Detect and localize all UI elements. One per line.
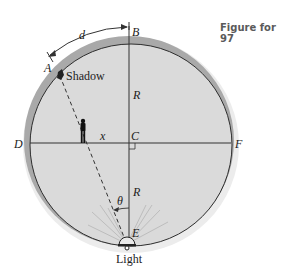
label-F: F (234, 137, 243, 151)
label-shadow: Shadow (66, 69, 105, 83)
label-d: d (79, 28, 86, 42)
label-R-bottom: R (132, 185, 141, 199)
label-theta: θ (117, 194, 123, 208)
label-E: E (131, 226, 140, 240)
label-x: x (99, 129, 106, 143)
label-A: A (43, 61, 52, 75)
arc-d-arrow-right (121, 24, 128, 30)
label-C: C (131, 129, 140, 143)
label-D: D (13, 137, 23, 151)
label-R-top: R (132, 88, 141, 102)
figure-caption: Figure for 97 (220, 22, 293, 44)
label-B: B (132, 25, 140, 39)
label-light: Light (116, 252, 143, 266)
figure-97: d B A Shadow R D x C F R θ E Light Figur… (0, 0, 293, 271)
